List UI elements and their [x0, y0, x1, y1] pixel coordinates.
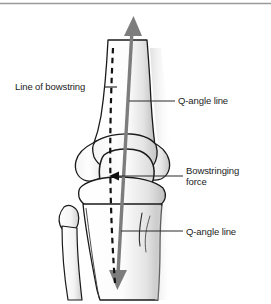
bone-group	[59, 40, 172, 300]
label-bowstringing-force: Bowstringingforce	[186, 165, 239, 187]
label-q-angle-line-upper: Q-angle line	[178, 95, 228, 106]
label-bowstringing-force-line1: Bowstringing	[186, 165, 239, 176]
label-line-of-bowstring: Line of bowstring	[15, 81, 85, 92]
knee-q-angle-figure: Line of bowstring Q-angle line Bowstring…	[0, 0, 271, 304]
illustration-canvas	[0, 0, 271, 304]
label-bowstringing-force-line2: force	[186, 176, 207, 187]
fibula-shaft	[62, 226, 82, 300]
label-q-angle-line-lower: Q-angle line	[186, 226, 236, 237]
tibia-shadow	[155, 206, 172, 300]
femur-shaft	[93, 40, 155, 146]
